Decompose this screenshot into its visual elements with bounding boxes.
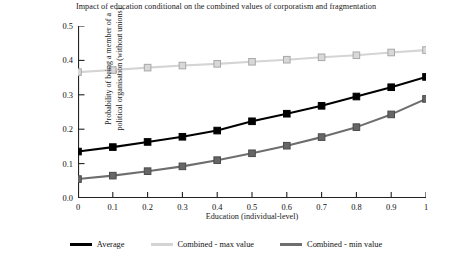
series-marker	[179, 62, 186, 69]
legend-item: Combined - max value	[151, 240, 255, 249]
y-tick-label: 0.5	[63, 22, 73, 31]
chart-figure: Impact of education conditional on the c…	[0, 0, 452, 263]
x-tick-label: 0.7	[316, 203, 326, 212]
legend-item: Combined - min value	[280, 240, 382, 249]
series-marker	[284, 142, 291, 149]
series-marker	[423, 74, 426, 81]
y-tick-label: 0.0	[63, 194, 73, 203]
series-marker	[284, 110, 291, 117]
series-marker	[388, 111, 395, 118]
legend-label: Average	[97, 240, 125, 249]
series-marker	[78, 176, 81, 183]
series-marker	[284, 56, 291, 63]
series-marker	[318, 103, 325, 110]
series-marker	[144, 139, 151, 146]
legend-color-swatch	[70, 243, 92, 246]
y-tick-label: 0.4	[63, 56, 73, 65]
x-tick-label: 0.8	[351, 203, 361, 212]
y-axis-label-line-1: Probability of being a member of a	[104, 0, 115, 154]
series-marker	[110, 172, 117, 179]
x-tick-label: 1	[424, 203, 428, 212]
series-marker	[353, 124, 360, 131]
x-tick-label: 0.3	[177, 203, 187, 212]
legend-color-swatch	[280, 243, 302, 246]
series-marker	[423, 96, 426, 103]
y-tick-label: 0.3	[63, 90, 73, 99]
series-marker	[179, 133, 186, 140]
x-tick-label: 0.6	[282, 203, 292, 212]
series-marker	[144, 64, 151, 71]
legend-item: Average	[70, 240, 125, 249]
series-marker	[179, 163, 186, 170]
series-marker	[353, 52, 360, 59]
data-series	[78, 47, 426, 76]
x-axis-label: Education (individual-level)	[78, 212, 426, 221]
y-axis-label-line-2: political organisation (without unions)	[115, 0, 126, 154]
series-marker	[388, 84, 395, 91]
x-tick-label: 0	[76, 203, 80, 212]
series-marker	[388, 49, 395, 56]
x-tick-label: 0.9	[386, 203, 396, 212]
series-marker	[249, 150, 256, 157]
series-marker	[144, 168, 151, 175]
chart-title: Impact of education conditional on the c…	[0, 2, 452, 11]
series-line	[78, 99, 426, 179]
series-marker	[78, 69, 81, 76]
x-tick-label: 0.4	[212, 203, 222, 212]
x-tick-label: 0.1	[108, 203, 118, 212]
legend-label: Combined - min value	[307, 240, 382, 249]
data-series	[78, 74, 426, 155]
series-layer	[78, 47, 426, 183]
series-marker	[423, 47, 426, 54]
x-tick-label: 0.5	[247, 203, 257, 212]
data-series	[78, 96, 426, 183]
axis-layer	[78, 26, 426, 198]
chart-legend: AverageCombined - max valueCombined - mi…	[0, 240, 452, 249]
series-marker	[353, 93, 360, 100]
series-line	[78, 77, 426, 152]
x-tick-label: 0.2	[142, 203, 152, 212]
series-marker	[214, 127, 221, 134]
series-marker	[318, 134, 325, 141]
plot-canvas	[78, 26, 426, 198]
series-marker	[78, 148, 81, 155]
legend-label: Combined - max value	[178, 240, 255, 249]
legend-color-swatch	[151, 243, 173, 246]
series-marker	[249, 58, 256, 65]
plot-area: Probability of being a member of a polit…	[78, 26, 426, 198]
y-tick-label: 0.2	[63, 125, 73, 134]
series-marker	[318, 54, 325, 61]
series-marker	[214, 157, 221, 164]
series-marker	[214, 61, 221, 68]
y-tick-label: 0.1	[63, 159, 73, 168]
series-marker	[249, 118, 256, 125]
y-axis-label: Probability of being a member of a polit…	[104, 0, 130, 154]
